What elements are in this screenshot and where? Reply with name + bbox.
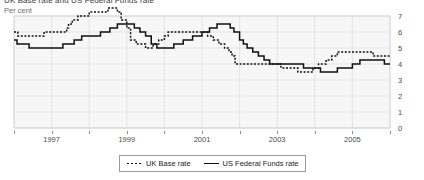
x-tick-mark: [127, 131, 128, 134]
y-axis-labels: 01234567: [392, 16, 422, 128]
chart-figure: UK Base rate and US Federal Funds rate P…: [0, 0, 424, 180]
dotted-line-swatch-icon: [127, 162, 142, 166]
plot-area: [14, 16, 390, 128]
x-tick-mark: [240, 131, 241, 134]
y-tick-label: 7: [398, 12, 402, 21]
y-tick-label: 5: [398, 44, 402, 53]
y-tick-label: 0: [398, 124, 402, 133]
x-tick-label: 2001: [194, 135, 211, 144]
y-tick-label: 3: [398, 76, 402, 85]
x-tick-label: 1999: [118, 135, 135, 144]
x-tick-mark: [277, 131, 278, 134]
x-axis-labels: 19971999200120032005: [14, 131, 390, 145]
y-tick-label: 2: [398, 92, 402, 101]
legend-label: US Federal Funds rate: [223, 159, 299, 168]
y-axis-unit-label: Per cent: [4, 6, 32, 15]
legend-item-uk-base-rate: UK Base rate: [127, 159, 191, 168]
x-tick-mark: [14, 131, 15, 134]
x-tick-mark: [164, 131, 165, 134]
chart-canvas: [14, 16, 390, 128]
x-tick-mark: [89, 131, 90, 134]
x-tick-mark: [315, 131, 316, 134]
y-tick-label: 4: [398, 60, 402, 69]
x-tick-mark: [390, 131, 391, 134]
x-tick-label: 1997: [43, 135, 60, 144]
solid-line-swatch-icon: [204, 162, 219, 166]
y-tick-label: 6: [398, 28, 402, 37]
x-tick-mark: [52, 131, 53, 134]
x-tick-mark: [202, 131, 203, 134]
x-tick-label: 2005: [344, 135, 361, 144]
legend-label: UK Base rate: [146, 159, 191, 168]
x-tick-label: 2003: [269, 135, 286, 144]
y-tick-label: 1: [398, 108, 402, 117]
chart-legend: UK Base rate US Federal Funds rate: [119, 155, 306, 172]
legend-item-us-federal-funds-rate: US Federal Funds rate: [204, 159, 299, 168]
chart-title: UK Base rate and US Federal Funds rate: [4, 0, 154, 5]
x-tick-mark: [352, 131, 353, 134]
